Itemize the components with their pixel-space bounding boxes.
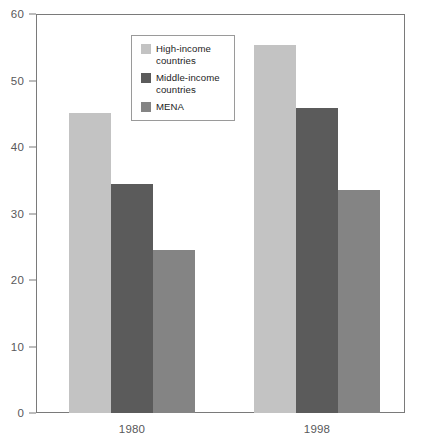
legend-swatch-icon: [141, 44, 151, 54]
y-tick-mark: [29, 213, 36, 214]
bar: [69, 113, 111, 413]
bar-chart: 0102030405060 19801998 High-income count…: [0, 0, 422, 443]
legend-label: High-income countries: [156, 43, 226, 66]
bar: [338, 190, 380, 413]
y-tick-mark: [29, 346, 36, 347]
y-tick-label: 60: [11, 8, 24, 20]
y-tick-mark: [29, 14, 36, 15]
legend-label: MENA: [156, 101, 184, 113]
y-tick-label: 0: [17, 407, 24, 419]
legend-label: Middle-income countries: [156, 72, 226, 95]
x-tick-label: 1980: [119, 423, 145, 435]
legend-swatch-icon: [141, 102, 151, 112]
legend-item: High-income countries: [141, 43, 226, 66]
y-tick-mark: [29, 280, 36, 281]
y-axis: 0102030405060: [0, 0, 36, 443]
bar: [254, 45, 296, 413]
y-tick-label: 10: [11, 341, 24, 353]
bar: [153, 250, 195, 413]
chart-legend: High-income countriesMiddle-income count…: [131, 35, 235, 121]
legend-item: MENA: [141, 101, 226, 113]
x-tick-label: 1998: [304, 423, 330, 435]
legend-item: Middle-income countries: [141, 72, 226, 95]
legend-swatch-icon: [141, 73, 151, 83]
y-tick-label: 50: [11, 75, 24, 87]
bar: [111, 184, 153, 413]
y-tick-mark: [29, 413, 36, 414]
y-tick-mark: [29, 147, 36, 148]
bar: [296, 108, 338, 413]
y-tick-mark: [29, 80, 36, 81]
y-tick-label: 30: [11, 208, 24, 220]
y-tick-label: 40: [11, 141, 24, 153]
y-tick-label: 20: [11, 274, 24, 286]
